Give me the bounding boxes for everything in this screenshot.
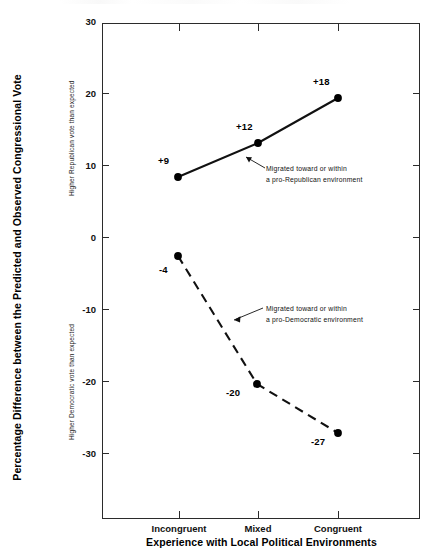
- republican-point-incongruent: [174, 173, 182, 181]
- data-label-democratic-incongruent: -4: [159, 264, 168, 275]
- democratic-point-mixed: [253, 380, 261, 388]
- data-label-democratic-congruent: -27: [311, 436, 325, 447]
- democratic-point-incongruent: [174, 252, 182, 260]
- republican-point-mixed: [254, 139, 262, 147]
- annotation-republican-line2: a pro-Republican environment: [266, 175, 363, 186]
- series-democratic: [174, 252, 342, 437]
- data-label-democratic-mixed: -20: [226, 387, 240, 398]
- democratic-line: [178, 256, 338, 433]
- data-label-republican-incongruent: +9: [158, 155, 169, 166]
- data-label-republican-congruent: +18: [313, 76, 330, 87]
- annotation-republican: Migrated toward or within a pro-Republic…: [266, 164, 363, 185]
- democratic-annotation-arrow: [234, 308, 263, 323]
- annotation-democratic-line2: a pro-Democratic environment: [266, 315, 363, 326]
- democratic-point-congruent: [334, 429, 342, 437]
- annotation-democratic: Migrated toward or within a pro-Democrat…: [266, 304, 363, 325]
- republican-point-congruent: [334, 94, 342, 102]
- chart-figure: Percentage Difference between the Predic…: [0, 0, 434, 555]
- republican-annotation-arrow: [246, 157, 265, 168]
- x-axis-title: Experience with Local Political Environm…: [103, 536, 420, 548]
- data-label-republican-mixed: +12: [236, 121, 253, 132]
- annotation-republican-line1: Migrated toward or within: [266, 164, 363, 175]
- data-layer: [0, 0, 434, 555]
- annotation-democratic-line1: Migrated toward or within: [266, 304, 363, 315]
